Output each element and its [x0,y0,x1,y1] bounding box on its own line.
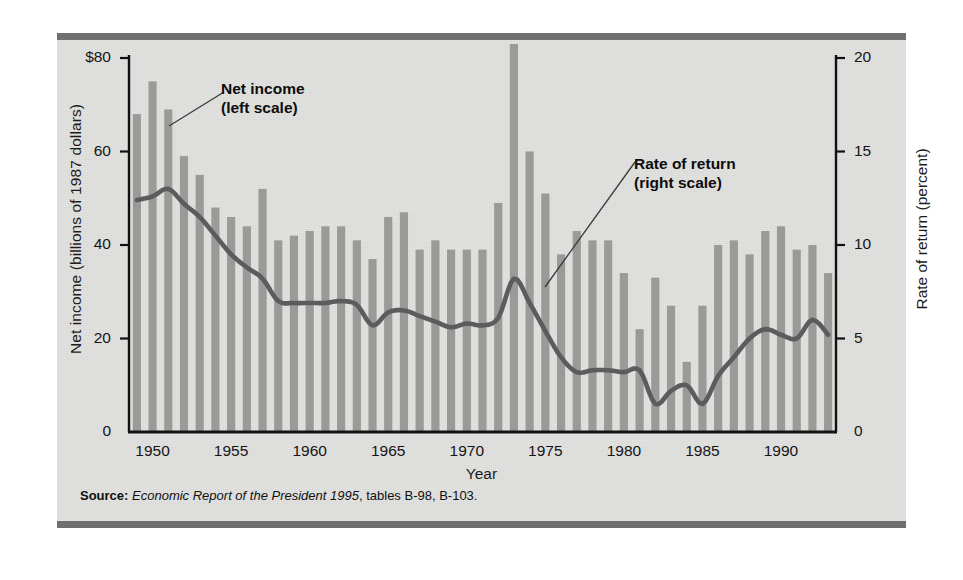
bar-1964 [368,259,376,432]
bar-1984 [683,362,691,432]
source-label: Source: [80,488,128,503]
source-note: Source: Economic Report of the President… [80,488,477,503]
annotation-net-income: Net income (left scale) [221,80,305,118]
figure-panel: Net income (billions of 1987 dollars) Ra… [57,33,906,528]
bar-1980 [620,273,628,432]
bar-1987 [730,240,738,432]
chart-canvas [57,40,906,480]
x-tick-label-1990: 1990 [751,442,811,460]
y-tick-label-left-20: 20 [51,329,111,347]
bar-1973 [510,44,518,432]
bar-1993 [824,273,832,432]
bar-1983 [667,306,675,432]
bar-1992 [808,245,816,432]
bar-1962 [337,226,345,432]
bar-1961 [321,226,329,432]
source-title: Economic Report of the President 1995 [132,488,359,503]
x-tick-label-1985: 1985 [672,442,732,460]
x-tick-label-1955: 1955 [201,442,261,460]
bar-1957 [258,189,266,432]
x-tick-label-1965: 1965 [358,442,418,460]
annotation-rate-of-return-line2: (right scale) [634,174,736,193]
x-tick-label-1950: 1950 [123,442,183,460]
y-axis-right-title: Rate of return (percent) [913,64,931,394]
bar-1967 [416,250,424,432]
bar-1951 [164,109,172,432]
bar-1959 [290,236,298,432]
source-tail: , tables B-98, B-103. [359,488,478,503]
annotation-rate-of-return-line1: Rate of return [634,155,736,174]
annotation-net-income-line1: Net income [221,80,305,99]
x-tick-label-1975: 1975 [515,442,575,460]
bar-1950 [148,81,156,432]
x-tick-label-1960: 1960 [280,442,340,460]
bar-1974 [526,152,534,433]
bottom-rule [57,521,906,528]
bar-1976 [557,254,565,432]
bar-1949 [133,114,141,432]
y-tick-label-left-40: 40 [51,235,111,253]
bar-1956 [243,226,251,432]
annotation-net-income-line2: (left scale) [221,99,305,118]
bar-1969 [447,250,455,432]
bar-1960 [306,231,314,432]
y-tick-label-left-60: 60 [51,142,111,160]
y-tick-label-right-20: 20 [854,48,914,66]
x-tick-label-1970: 1970 [437,442,497,460]
y-tick-label-right-5: 5 [854,329,914,347]
bar-1977 [573,231,581,432]
bar-1963 [353,240,361,432]
bar-1966 [400,212,408,432]
y-tick-label-right-10: 10 [854,235,914,253]
bar-1982 [651,278,659,432]
bar-1975 [541,194,549,432]
bar-1965 [384,217,392,432]
y-tick-label-left-0: 0 [51,422,111,440]
plot-area: Net income (billions of 1987 dollars) Ra… [57,40,906,480]
annotation-rate-of-return: Rate of return (right scale) [634,155,736,193]
y-tick-label-left-80: $80 [51,48,111,66]
bar-1958 [274,240,282,432]
bar-1986 [714,245,722,432]
bar-1971 [478,250,486,432]
bar-1990 [777,226,785,432]
bar-1979 [604,240,612,432]
x-tick-label-1980: 1980 [594,442,654,460]
y-tick-label-right-0: 0 [854,422,914,440]
leader-line-net-income [169,92,224,126]
top-rule [57,33,906,40]
bar-1978 [588,240,596,432]
y-tick-label-right-15: 15 [854,142,914,160]
x-axis-title: Year [57,465,906,483]
bar-1970 [463,250,471,432]
bar-1985 [698,306,706,432]
bar-1968 [431,240,439,432]
